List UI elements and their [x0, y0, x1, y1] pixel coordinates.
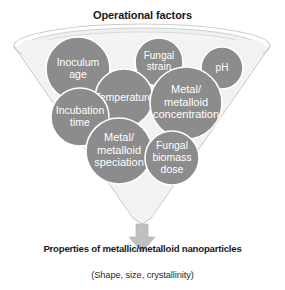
bubble-label-line: dose: [161, 163, 184, 175]
outcome-subtitle: (Shape, size, crystallinity): [0, 270, 285, 280]
factor-bubble-group: InoculumageFungalstrainpHTemperatureMeta…: [46, 37, 243, 185]
bubble-label-line: Incubation: [56, 104, 105, 116]
bubble-label-line: pH: [216, 62, 229, 73]
bubble-label-line: Inoculum: [57, 56, 100, 68]
factor-bubble-metal-metalloid-concentration[interactable]: Metal/metalloidconcentration: [150, 67, 222, 139]
bubble-label-line: metalloid: [97, 144, 141, 156]
bubble-label-line: strain: [147, 61, 171, 72]
bubble-label-line: biomass: [152, 151, 191, 163]
bubble-label-line: Metal/: [104, 131, 135, 143]
bubble-label-line: metalloid: [164, 96, 208, 108]
bubble-label-line: speciation: [94, 156, 144, 168]
bubble-label-line: Fungal: [144, 50, 175, 61]
factor-bubble-metal-metalloid-speciation[interactable]: Metal/metalloidspeciation: [86, 118, 152, 184]
outcome-title: Properties of metallic/metalloid nanopar…: [0, 243, 285, 255]
bubble-label-line: Fungal: [156, 139, 188, 151]
bubble-label-line: time: [70, 116, 90, 128]
bubble-label-line: concentration: [153, 108, 219, 120]
bubble-label-line: Metal/: [171, 83, 202, 95]
funnel-diagram: Operational factors InoculumageFungalstr…: [0, 0, 285, 290]
bubble-label-line: age: [69, 68, 87, 80]
factor-bubble-fungal-biomass-dose[interactable]: Fungalbiomassdose: [145, 131, 199, 185]
